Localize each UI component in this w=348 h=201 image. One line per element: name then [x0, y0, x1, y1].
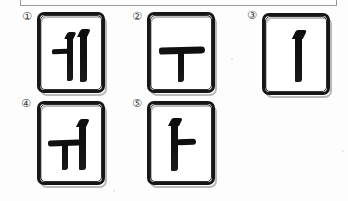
jamo-glyph-i [268, 19, 324, 89]
question-content-box [20, 0, 337, 6]
option-card-4[interactable] [37, 101, 105, 185]
jamo-glyph-a [153, 107, 209, 179]
jamo-glyph-u [153, 18, 209, 87]
jamo-glyph-e [43, 18, 99, 87]
jamo-glyph-wi [43, 107, 99, 179]
option-card-5[interactable] [147, 101, 215, 185]
option-marker-1[interactable]: ① [22, 11, 32, 22]
scan-speckle [231, 58, 233, 60]
option-card-1[interactable] [37, 12, 105, 93]
option-marker-4[interactable]: ④ [21, 98, 31, 109]
option-card-3[interactable] [262, 13, 330, 95]
option-card-2[interactable] [147, 12, 215, 93]
option-marker-2[interactable]: ② [132, 11, 142, 22]
worksheet-page: ① ② [0, 0, 348, 201]
scan-speckle [342, 150, 344, 152]
scan-speckle [113, 190, 115, 192]
option-marker-3[interactable]: ③ [247, 10, 257, 21]
option-marker-5[interactable]: ⑤ [132, 98, 142, 109]
